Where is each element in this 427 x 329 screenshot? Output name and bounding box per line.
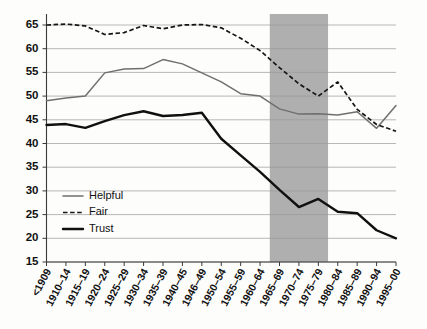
y-tick-label: 40 [26, 137, 39, 149]
y-tick-label: 55 [26, 65, 39, 77]
y-tick-label: 35 [26, 160, 39, 172]
x-axis-ticks: <19091910–141915–191920–241925–291930–34… [29, 262, 403, 308]
y-tick-label: 50 [26, 89, 39, 101]
legend-label-helpful: Helpful [89, 189, 123, 201]
series-line-fair [47, 24, 397, 131]
line-chart: 1520253035404550556065 <19091910–141915–… [0, 0, 427, 329]
series-line-trust [47, 111, 397, 238]
y-tick-label: 60 [26, 42, 39, 54]
y-tick-label: 65 [26, 18, 39, 30]
y-tick-label: 25 [26, 208, 39, 220]
y-tick-label: 30 [26, 184, 39, 196]
y-tick-label: 15 [26, 255, 39, 267]
chart-legend: HelpfulFairTrust [63, 189, 123, 234]
y-tick-label: 20 [26, 231, 39, 243]
chart-container: 1520253035404550556065 <19091910–141915–… [0, 0, 427, 329]
highlight-band-rect [270, 14, 328, 262]
legend-label-trust: Trust [89, 222, 114, 234]
highlight-band [270, 14, 328, 262]
legend-label-fair: Fair [89, 205, 108, 217]
y-tick-label: 45 [26, 113, 39, 125]
y-axis-ticks: 1520253035404550556065 [26, 18, 47, 267]
series-line-helpful [47, 60, 397, 129]
